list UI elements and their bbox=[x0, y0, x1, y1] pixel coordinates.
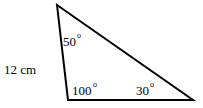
angle-bottom-right-value: 30 bbox=[136, 83, 149, 98]
angle-bottom-left-degree: o bbox=[93, 80, 97, 89]
angle-bottom-left-value: 100 bbox=[72, 83, 92, 98]
angle-bottom-right-degree: o bbox=[150, 80, 154, 89]
side-length-label: 12 cm bbox=[4, 62, 36, 77]
angle-top-value: 50 bbox=[63, 34, 76, 49]
angle-top-degree: o bbox=[77, 31, 81, 40]
triangle-diagram: 12 cm 50 o 100 o 30 o bbox=[0, 0, 203, 108]
